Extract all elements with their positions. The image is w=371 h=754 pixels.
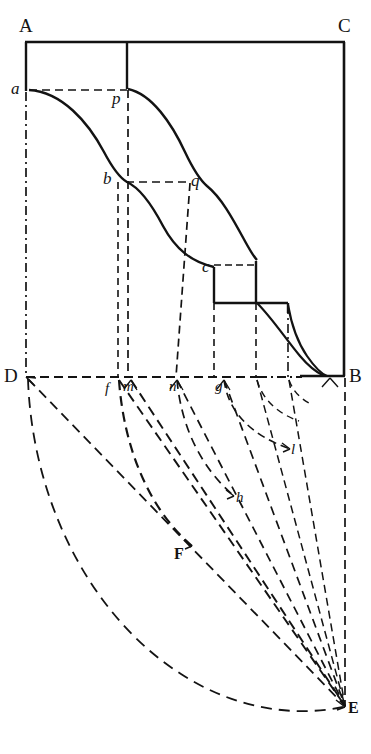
label-g: g bbox=[215, 379, 223, 394]
label-h: h bbox=[236, 490, 244, 505]
arc-through-g bbox=[224, 380, 290, 449]
label-c: c bbox=[202, 258, 210, 275]
label-q: q bbox=[191, 172, 200, 189]
label-m: m bbox=[123, 379, 134, 394]
dash-vertical-q-to-n bbox=[176, 183, 190, 377]
arc-through-f bbox=[119, 380, 192, 546]
label-A: A bbox=[19, 16, 33, 35]
radial-m-to-e bbox=[131, 380, 345, 706]
label-D: D bbox=[4, 366, 18, 385]
label-B: B bbox=[349, 366, 362, 385]
diagram-canvas bbox=[0, 0, 371, 754]
radial-n-to-e bbox=[177, 380, 345, 706]
label-E: E bbox=[348, 700, 359, 716]
radial-f-to-e bbox=[119, 380, 345, 706]
label-f: f bbox=[105, 381, 109, 396]
label-p: p bbox=[112, 90, 121, 107]
label-n: n bbox=[169, 379, 177, 394]
label-b: b bbox=[103, 170, 112, 187]
arc-through-step2 bbox=[289, 380, 313, 405]
label-F: F bbox=[174, 546, 184, 562]
radial-step1-to-e bbox=[257, 380, 345, 706]
label-C: C bbox=[338, 16, 351, 35]
radial-g-to-e bbox=[224, 380, 345, 706]
label-a: a bbox=[11, 80, 20, 97]
tick-b-arrow bbox=[322, 378, 338, 387]
label-l: l bbox=[291, 442, 295, 457]
figure-root: A C B D E F a p b q c f m n g h l bbox=[0, 0, 371, 754]
